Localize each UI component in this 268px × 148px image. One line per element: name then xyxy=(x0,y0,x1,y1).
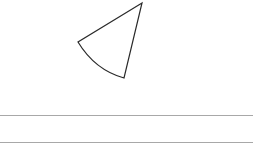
horizontal-rule-top xyxy=(0,115,253,116)
sector-diagram xyxy=(0,0,268,148)
horizontal-rule-bottom xyxy=(0,142,253,143)
sector-shape xyxy=(78,3,142,78)
